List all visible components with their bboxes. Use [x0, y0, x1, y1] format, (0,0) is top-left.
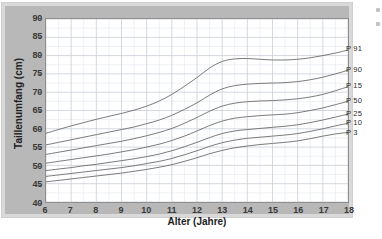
percentile-label: P 25: [346, 110, 362, 118]
y-tick-mark: [39, 148, 42, 149]
percentile-curves: [46, 19, 348, 202]
x-tick-label: 9: [111, 205, 131, 215]
x-tick-label: 17: [314, 205, 334, 215]
x-tick-label: 14: [238, 205, 258, 215]
percentile-label: P 3: [346, 129, 358, 137]
y-tick-mark: [39, 185, 42, 186]
y-tick-mark: [39, 74, 42, 75]
x-tick-label: 12: [187, 205, 207, 215]
y-tick-mark: [39, 129, 42, 130]
x-tick-label: 8: [86, 205, 106, 215]
y-tick-mark: [39, 18, 42, 19]
y-tick-mark: [39, 55, 42, 56]
y-axis-title: Taillenumfang (cm): [13, 29, 24, 179]
page-edge-artifact: [376, 8, 381, 34]
y-tick-mark: [39, 111, 42, 112]
x-axis-title: Alter (Jahre): [45, 216, 349, 227]
x-tick-label: 16: [288, 205, 308, 215]
y-tick-label: 90: [8, 14, 42, 23]
percentile-label: P 91: [346, 45, 362, 53]
y-tick-mark: [39, 166, 42, 167]
y-axis-ticks: 4045505560657075808590: [5, 18, 42, 203]
chart-mat: 4045505560657075808590 67891011121314151…: [5, 6, 349, 214]
y-tick-mark: [39, 203, 42, 204]
y-tick-mark: [39, 92, 42, 93]
x-tick-label: 11: [162, 205, 182, 215]
x-tick-label: 6: [35, 205, 55, 215]
x-tick-label: 10: [136, 205, 156, 215]
percentile-label: P 15: [346, 82, 362, 90]
x-tick-label: 15: [263, 205, 283, 215]
percentile-label: P 10: [346, 119, 362, 127]
plot-area: [45, 18, 349, 203]
x-tick-label: 7: [60, 205, 80, 215]
percentile-label: P 50: [346, 97, 362, 105]
y-tick-label: 45: [8, 180, 42, 189]
percentile-label: P 90: [346, 66, 362, 74]
x-tick-label: 13: [212, 205, 232, 215]
y-tick-mark: [39, 37, 42, 38]
waist-circumference-percentile-chart: 4045505560657075808590 67891011121314151…: [0, 0, 382, 239]
